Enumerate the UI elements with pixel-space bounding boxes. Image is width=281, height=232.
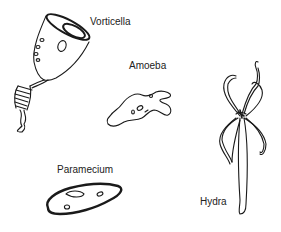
vorticella-drawing — [15, 10, 93, 132]
organism-diagram: Vorticella Amoeba Paramecium Hydra — [0, 0, 281, 232]
vorticella-label: Vorticella — [90, 16, 131, 27]
hydra-drawing — [220, 61, 266, 214]
hydra-label: Hydra — [200, 196, 227, 207]
paramecium-drawing — [47, 184, 121, 214]
paramecium-label: Paramecium — [57, 164, 113, 175]
amoeba-drawing — [107, 91, 171, 126]
amoeba-label: Amoeba — [129, 60, 166, 71]
drawings — [0, 0, 281, 232]
